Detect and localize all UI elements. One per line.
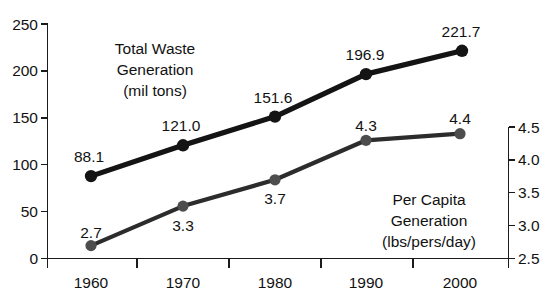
- legend-per-capita-line3: (lbs/pers/day): [382, 233, 476, 250]
- data-point-total-waste-2000: [456, 45, 468, 57]
- data-point-per-capita-1960: [85, 240, 96, 251]
- x-tick-label-2000: 2000: [443, 274, 478, 291]
- legend-total-waste-line1: Total Waste: [115, 40, 195, 57]
- data-label-per-capita-1990: 4.3: [355, 117, 377, 134]
- data-point-total-waste-1960: [85, 170, 97, 182]
- right-tick-label-3-5: 3.5: [518, 184, 540, 201]
- data-point-per-capita-1970: [177, 201, 188, 212]
- left-tick-label-200: 200: [12, 62, 38, 79]
- data-point-per-capita-2000: [454, 128, 465, 139]
- right-tick-label-4-0: 4.0: [518, 151, 540, 168]
- legend-per-capita-generation: Per Capita Generation (lbs/pers/day): [382, 191, 476, 250]
- x-tick-label-1990: 1990: [349, 274, 384, 291]
- legend-per-capita-line2: Generation: [391, 212, 468, 229]
- data-label-per-capita-1970: 3.3: [172, 217, 194, 234]
- left-tick-label-150: 150: [12, 109, 38, 126]
- data-label-per-capita-1960: 2.7: [80, 224, 102, 241]
- left-tick-label-0: 0: [29, 250, 38, 267]
- data-point-total-waste-1980: [269, 110, 281, 122]
- left-tick-label-250: 250: [12, 16, 38, 33]
- data-point-total-waste-1970: [177, 139, 189, 151]
- data-point-per-capita-1990: [360, 135, 371, 146]
- data-label-per-capita-2000: 4.4: [449, 110, 471, 127]
- legend-total-waste-line2: Generation: [117, 61, 194, 78]
- data-point-total-waste-1990: [360, 68, 372, 80]
- data-point-per-capita-1980: [269, 174, 280, 185]
- x-tick-label-1980: 1980: [258, 274, 293, 291]
- chart-container: 250 200 150 100 50 0 1960 1970 1980 1990…: [0, 0, 550, 301]
- data-label-total-waste-1960: 88.1: [74, 148, 104, 165]
- data-label-total-waste-1970: 121.0: [162, 117, 201, 134]
- right-tick-label-3-0: 3.0: [518, 217, 540, 234]
- line-chart: 250 200 150 100 50 0 1960 1970 1980 1990…: [0, 0, 550, 301]
- right-tick-label-4-5: 4.5: [518, 119, 540, 136]
- data-label-total-waste-2000: 221.7: [442, 23, 481, 40]
- right-tick-label-2-5: 2.5: [518, 250, 540, 267]
- legend-total-waste-line3: (mil tons): [123, 82, 187, 99]
- x-tick-label-1970: 1970: [166, 274, 201, 291]
- legend-total-waste-generation: Total Waste Generation (mil tons): [115, 40, 195, 99]
- data-label-total-waste-1980: 151.6: [254, 89, 293, 106]
- data-label-per-capita-1980: 3.7: [264, 190, 286, 207]
- data-label-total-waste-1990: 196.9: [346, 46, 385, 63]
- left-tick-label-100: 100: [12, 156, 38, 173]
- legend-per-capita-line1: Per Capita: [392, 191, 466, 208]
- x-tick-label-1960: 1960: [74, 274, 109, 291]
- left-tick-label-50: 50: [21, 203, 39, 220]
